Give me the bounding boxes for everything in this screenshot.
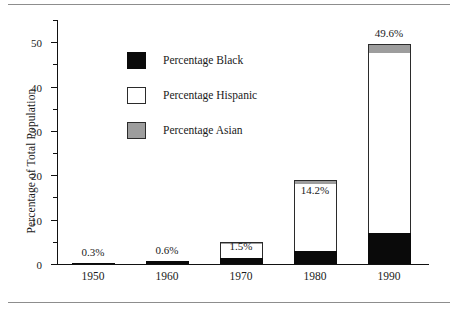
bar-1960: 0.6% [146,261,189,264]
y-tick-label-30: 30 [31,126,42,138]
bottom-rule [8,302,450,303]
legend-label-asian: Percentage Asian [163,124,243,136]
x-tick-label-1980: 1980 [304,270,327,282]
y-tick-30: 30 [51,131,57,132]
y-tick-50: 50 [51,42,57,43]
bar-1950: 0.3% [72,263,115,264]
bar-1990: 49.6% [368,44,411,264]
black-swatch-icon [127,52,146,69]
white-swatch-icon [127,87,146,104]
x-tick-label-1950: 1950 [82,270,105,282]
legend-item-black: Percentage Black [127,47,257,73]
bar-segment-1990-asian [368,44,411,53]
bar-1970: 1.5% [220,242,263,264]
bar-segment-1980-black [294,251,337,264]
legend-label-black: Percentage Black [163,54,243,66]
y-tick-label-40: 40 [31,82,42,94]
y-tick-20: 20 [51,175,57,176]
y-tick-label-20: 20 [31,170,42,182]
y-tick-40: 40 [51,87,57,88]
legend-label-hispanic: Percentage Hispanic [163,89,257,101]
y-axis-label: Percentage of Total Population [25,46,37,276]
chart-legend: Percentage Black Percentage Hispanic Per… [127,47,257,152]
bar-value-label-1970: 1.5% [230,240,253,252]
chart-figure: Percentage of Total Population 010203040… [0,0,458,314]
bar-value-label-1990: 49.6% [375,27,403,39]
legend-item-asian: Percentage Asian [127,117,257,143]
y-minor-tick-15 [53,197,57,198]
bar-value-label-1960: 0.6% [156,244,179,256]
y-tick-10: 10 [51,220,57,221]
y-minor-tick-55 [53,20,57,21]
y-tick-0: 0 [51,264,57,265]
bar-segment-1950-black [72,263,115,264]
y-axis-line [57,20,58,264]
y-minor-tick-35 [53,109,57,110]
bar-segment-1990-black [368,233,411,264]
bar-value-label-1980: 14.2% [301,184,329,196]
x-tick-label-1960: 1960 [156,270,179,282]
y-tick-label-0: 0 [37,259,43,271]
x-axis-line [57,264,429,265]
y-minor-tick-45 [53,64,57,65]
bar-segment-1990-hispanic [368,53,411,233]
bar-segment-1960-black [146,261,189,264]
bar-1980: 14.2% [294,180,337,264]
y-minor-tick-25 [53,153,57,154]
y-tick-label-50: 50 [31,37,42,49]
top-rule [8,4,450,5]
x-tick-label-1970: 1970 [230,270,253,282]
x-tick-label-1990: 1990 [378,270,401,282]
legend-item-hispanic: Percentage Hispanic [127,82,257,108]
y-minor-tick-5 [53,242,57,243]
bar-segment-1970-black [220,258,263,264]
bar-value-label-1950: 0.3% [82,246,105,258]
y-tick-label-10: 10 [31,215,42,227]
gray-swatch-icon [127,122,146,139]
